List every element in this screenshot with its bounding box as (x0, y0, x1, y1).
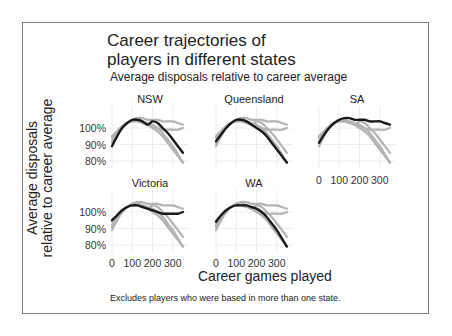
panel-title: SA (350, 93, 365, 105)
panel-sa: SA0100200300 (316, 93, 395, 186)
x-tick-label: 100 (331, 174, 349, 186)
panel-victoria: Victoria100%90%80%0100200300 (79, 177, 188, 269)
x-tick-label: 200 (351, 174, 369, 186)
panel-title: Queensland (224, 93, 283, 105)
panel-wa: WA0100200300 (213, 177, 292, 269)
x-tick-label: 100 (124, 257, 142, 269)
footnote: Excludes players who were based in more … (110, 293, 341, 303)
x-tick-label: 0 (109, 257, 115, 269)
y-tick-label: 100% (79, 122, 106, 134)
panel-nsw: NSW100%90%80% (79, 93, 188, 168)
y-tick-label: 100% (79, 206, 106, 218)
x-tick-label: 200 (144, 257, 162, 269)
highlight-state-line (216, 119, 287, 162)
y-tick-label: 90% (85, 223, 106, 235)
y-tick-label: 80% (85, 155, 106, 167)
panel-queensland: Queensland (214, 93, 292, 168)
panel-title: NSW (137, 93, 163, 105)
y-tick-label: 90% (85, 139, 106, 151)
panel-title: Victoria (132, 177, 169, 189)
x-axis-title: Career games played (198, 268, 332, 284)
panel-title: WA (245, 177, 263, 189)
y-tick-label: 80% (85, 239, 106, 251)
facet-plot-area: NSW100%90%80%QueenslandSA0100200300Victo… (0, 0, 452, 336)
x-tick-label: 300 (164, 257, 182, 269)
x-tick-label: 300 (371, 174, 389, 186)
x-tick-label: 0 (316, 174, 322, 186)
